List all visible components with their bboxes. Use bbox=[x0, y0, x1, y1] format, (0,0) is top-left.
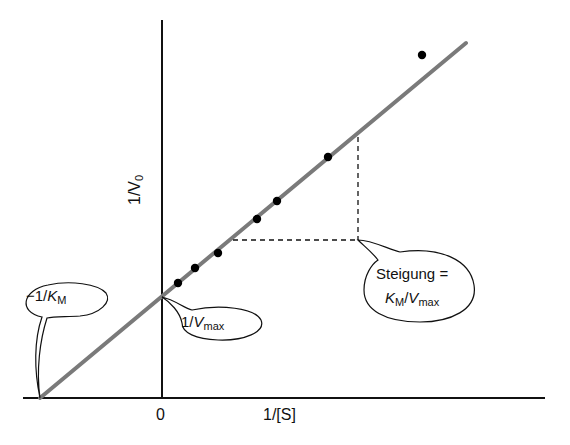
x-axis-label: 1/[S] bbox=[263, 406, 296, 424]
km-prefix: −1/ bbox=[26, 287, 47, 304]
slope-km-sub: M bbox=[395, 296, 404, 308]
slope-line1: Steigung = bbox=[376, 262, 448, 286]
callout-vmax-label: 1/Vmax bbox=[181, 313, 224, 332]
x-tick-zero: 0 bbox=[156, 406, 165, 424]
data-point bbox=[253, 215, 261, 223]
vmax-main: V bbox=[194, 313, 204, 330]
callout-slope-label: Steigung = KM/Vmax bbox=[376, 262, 448, 314]
slope-line2: KM/Vmax bbox=[376, 286, 448, 314]
vmax-sub: max bbox=[204, 320, 225, 332]
data-point bbox=[324, 153, 332, 161]
data-point bbox=[191, 264, 199, 272]
y-axis-label: 1/V0 bbox=[126, 175, 145, 205]
regression-line bbox=[40, 43, 466, 398]
km-sub: M bbox=[57, 294, 66, 306]
vmax-prefix: 1/ bbox=[181, 313, 194, 330]
slope-vmax: V bbox=[408, 289, 418, 306]
km-main: K bbox=[47, 287, 57, 304]
data-point bbox=[174, 279, 182, 287]
slope-km: K bbox=[385, 289, 395, 306]
callout-km-label: −1/KM bbox=[26, 287, 66, 306]
y-axis-label-sub: 0 bbox=[133, 175, 145, 181]
data-point bbox=[418, 51, 426, 59]
data-point bbox=[214, 249, 222, 257]
lineweaver-burk-plot bbox=[0, 0, 570, 445]
y-axis-label-main: 1/V bbox=[126, 181, 143, 205]
slope-vmax-sub: max bbox=[418, 296, 439, 308]
data-point bbox=[273, 197, 281, 205]
